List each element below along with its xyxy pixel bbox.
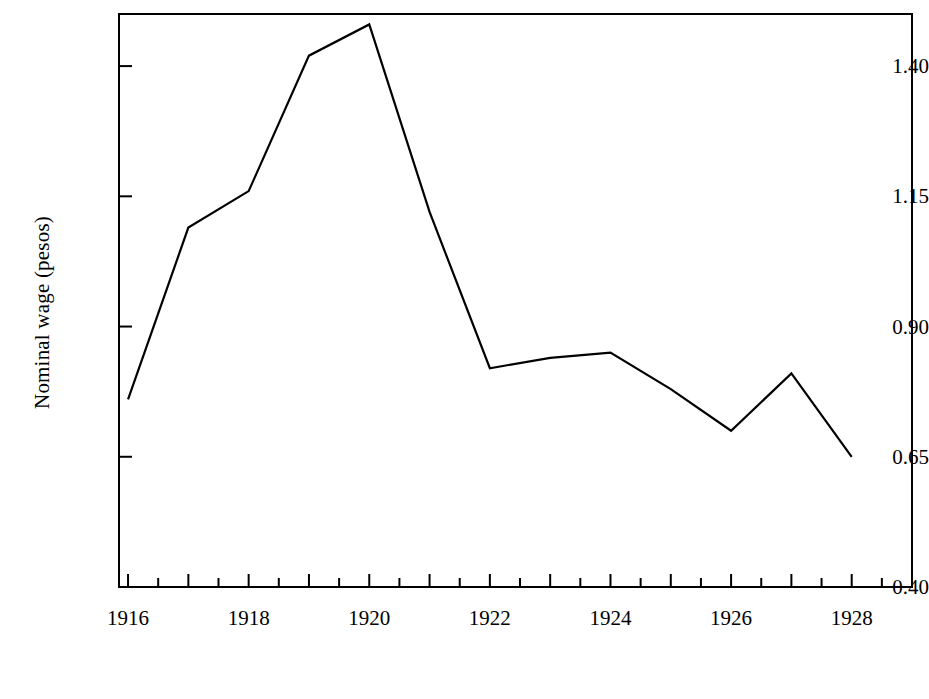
plot-frame (119, 14, 912, 587)
y-axis-ticks (119, 66, 132, 587)
line-chart: Nominal wage (pesos) 0.400.650.901.151.4… (0, 0, 929, 699)
plot-area (0, 0, 929, 699)
x-axis-minor-ticks (158, 578, 882, 587)
data-series-line (128, 24, 852, 456)
x-axis-major-ticks (128, 574, 852, 587)
